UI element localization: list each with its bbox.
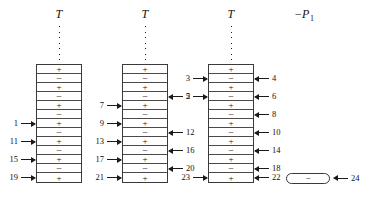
pointer-label: 23 — [182, 173, 191, 182]
dot-icon — [231, 59, 232, 60]
dot-icon — [59, 32, 60, 33]
dot-icon — [145, 26, 146, 27]
dot-icon — [59, 43, 60, 44]
arrow-left-icon — [255, 168, 269, 169]
dot-icon — [59, 48, 60, 49]
column-2-header-label: T — [122, 8, 168, 20]
single-minus-cell[interactable]: − — [286, 173, 330, 184]
pointer-label: 19 — [10, 173, 19, 182]
dot-icon — [145, 48, 146, 49]
pointer-label: 10 — [272, 128, 281, 137]
column-3-left-pointer-3: 3 — [174, 74, 208, 83]
arrow-right-icon — [21, 159, 35, 160]
p1-label-subscript: 1 — [309, 14, 314, 23]
pill-row: −24 — [286, 172, 360, 184]
plus-sign-icon: + — [209, 173, 253, 182]
lattice-cell[interactable]: + — [37, 173, 81, 182]
arrow-left-icon — [255, 132, 269, 133]
dot-icon — [231, 54, 232, 55]
column-1-cell-stack: +−+−+−+−+−+−+ — [36, 64, 82, 183]
dot-icon — [231, 32, 232, 33]
pointer-label: 5 — [186, 92, 190, 101]
column-2-left-pointer-9: 9 — [88, 119, 122, 128]
column-1-left-pointer-1: 1 — [2, 119, 36, 128]
arrow-right-icon — [107, 123, 121, 124]
column-2-right-pointer-12: 12 — [168, 128, 208, 137]
column-3-left-pointer-23: 23 — [174, 173, 208, 182]
column-2-cell-stack: +−+−+−+−+−+−+ — [122, 64, 168, 183]
pointer-label: 13 — [96, 137, 105, 146]
dot-icon — [231, 26, 232, 27]
dot-icon — [145, 54, 146, 55]
pointer-label: 9 — [100, 119, 104, 128]
arrow-right-icon — [107, 105, 121, 106]
plus-sign-icon: + — [123, 173, 167, 182]
arrow-right-icon — [107, 159, 121, 160]
pointer-label: 7 — [100, 101, 104, 110]
dot-icon — [145, 59, 146, 60]
lattice-sign-diagram: T+−+−+−+−+−+−+1111519T+−+−+−+−+−+−+79131… — [0, 0, 370, 200]
column-1-left-pointer-19: 19 — [2, 173, 36, 182]
arrow-right-icon — [107, 177, 121, 178]
pointer-label: 4 — [272, 74, 276, 83]
pointer-label: 12 — [186, 128, 195, 137]
arrow-right-icon — [193, 78, 207, 79]
pointer-label: 3 — [186, 74, 190, 83]
dot-icon — [145, 43, 146, 44]
arrow-left-icon — [334, 178, 348, 179]
arrow-right-icon — [21, 141, 35, 142]
dot-icon — [231, 48, 232, 49]
column-2-left-pointer-7: 7 — [88, 101, 122, 110]
right-section: −P1−24 — [286, 0, 370, 200]
pointer-label: 1 — [14, 119, 18, 128]
column-3-left-pointer-5: 5 — [174, 92, 208, 101]
arrow-right-icon — [107, 141, 121, 142]
column-1-left-pointer-15: 15 — [2, 155, 36, 164]
arrow-right-icon — [193, 177, 207, 178]
column-3-header-label: T — [208, 8, 254, 20]
pointer-label: 17 — [96, 155, 105, 164]
dot-icon — [59, 54, 60, 55]
arrow-right-icon — [21, 123, 35, 124]
pointer-label: 14 — [272, 146, 281, 155]
column-2-right-pointer-16: 16 — [168, 146, 208, 155]
arrow-left-icon — [169, 132, 183, 133]
p1-label: −P1 — [294, 8, 314, 25]
pointer-label: 16 — [186, 146, 195, 155]
dot-icon — [145, 32, 146, 33]
plus-sign-icon: + — [37, 173, 81, 182]
p1-label-main: −P — [294, 7, 309, 21]
minus-sign-icon: − — [305, 174, 310, 183]
column-3-cell-stack: +−+−+−+−+−+−+ — [208, 64, 254, 183]
column-2-left-pointer-21: 21 — [88, 173, 122, 182]
arrow-right-icon — [21, 177, 35, 178]
dot-icon — [231, 37, 232, 38]
dot-icon — [59, 26, 60, 27]
arrow-left-icon — [255, 114, 269, 115]
lattice-cell[interactable]: + — [209, 173, 253, 182]
lattice-cell[interactable]: + — [123, 173, 167, 182]
arrow-left-icon — [255, 96, 269, 97]
pointer-label: 24 — [351, 173, 360, 183]
pointer-label: 15 — [10, 155, 19, 164]
column-1-header-label: T — [36, 8, 82, 20]
dot-icon — [59, 59, 60, 60]
arrow-left-icon — [255, 150, 269, 151]
arrow-left-icon — [255, 78, 269, 79]
arrow-left-icon — [255, 177, 269, 178]
column-1-vertical-dots-icon — [36, 26, 82, 60]
arrow-left-icon — [169, 150, 183, 151]
pointer-label: 11 — [10, 137, 18, 146]
pointer-label: 22 — [272, 173, 281, 182]
column-3-vertical-dots-icon — [208, 26, 254, 60]
pointer-label: 21 — [96, 173, 105, 182]
column-2-left-pointer-17: 17 — [88, 155, 122, 164]
pointer-label: 6 — [272, 92, 276, 101]
dot-icon — [145, 37, 146, 38]
pointer-label: 8 — [272, 110, 276, 119]
arrow-left-icon — [169, 168, 183, 169]
column-2-vertical-dots-icon — [122, 26, 168, 60]
dot-icon — [231, 43, 232, 44]
arrow-right-icon — [193, 96, 207, 97]
dot-icon — [59, 37, 60, 38]
